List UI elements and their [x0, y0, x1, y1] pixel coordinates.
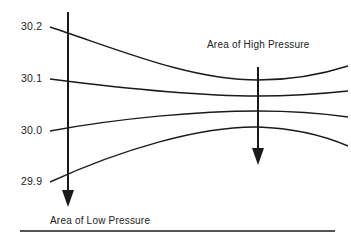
isobar-label-30-1: 30.1: [21, 72, 42, 84]
isobar-29-9: [50, 127, 348, 182]
high-pressure-arrowhead-icon: [252, 148, 264, 165]
isobar-30-0: [50, 111, 348, 131]
pressure-diagram: 30.2 30.1 30.0 29.9 Area of High Pressur…: [0, 0, 351, 240]
high-pressure-label: Area of High Pressure: [207, 39, 310, 50]
isobar-label-30-2: 30.2: [21, 20, 42, 32]
isobar-30-2: [50, 27, 348, 80]
low-pressure-arrowhead-icon: [62, 190, 74, 207]
low-pressure-label: Area of Low Pressure: [50, 215, 150, 226]
isobar-30-1: [50, 79, 348, 96]
isobar-label-29-9: 29.9: [21, 175, 42, 187]
diagram-graphics: [0, 0, 351, 240]
isobar-label-30-0: 30.0: [21, 124, 42, 136]
